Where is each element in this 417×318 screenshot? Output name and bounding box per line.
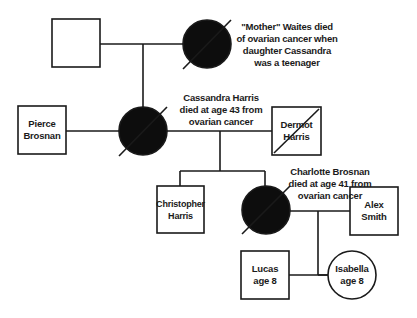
name-line: Isabella [335,263,368,275]
label-christopher-harris: Christopher Harris [155,186,206,233]
male-unaffected-waites-father [52,19,100,67]
note-line: was a teenager [228,57,346,69]
label-pierce-brosnan: Pierce Brosnan [18,106,66,154]
name-line: age 8 [253,275,276,287]
name-line: Smith [361,211,386,223]
label-alex-smith: Alex Smith [350,187,398,235]
name-line: Alex [364,199,383,211]
note-cassandra-harris: Cassandra Harris died at age 43 from ova… [166,92,276,128]
note-line: Charlotte Brosnan [276,166,384,178]
name-line: Pierce [28,118,55,130]
name-line: Harris [168,210,193,222]
name-line: Harris [283,131,309,143]
note-line: Cassandra Harris [166,92,276,104]
name-line: Christopher [156,198,205,210]
label-lucas: Lucas age 8 [241,251,289,299]
name-line: Dermot [280,119,312,131]
label-isabella: Isabella age 8 [328,251,376,299]
label-dermot-harris: Dermot Harris [272,107,321,155]
name-line: Brosnan [23,130,60,142]
note-line: daughter Cassandra [228,45,346,57]
name-line: Lucas [252,263,278,275]
note-line: died at age 43 from [166,104,276,116]
note-line: "Mother" Waites died [228,21,346,33]
note-mother-waites: "Mother" Waites died of ovarian cancer w… [228,21,346,69]
note-line: of ovarian cancer when [228,33,346,45]
note-line: ovarian cancer [166,116,276,128]
name-line: age 8 [340,275,363,287]
